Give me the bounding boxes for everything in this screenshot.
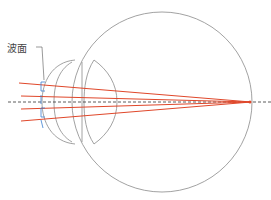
wavefront-leader [36,47,44,80]
eye-optics-svg [0,0,271,200]
eye-diagram: 波面 [0,0,271,200]
focal-point [249,101,252,104]
wavefront [41,82,45,128]
wavefront-label: 波面 [7,40,27,55]
